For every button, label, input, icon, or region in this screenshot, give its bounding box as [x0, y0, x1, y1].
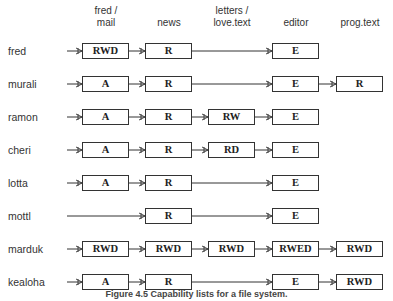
- row-label-ramon: ramon: [8, 111, 38, 123]
- capability-box: E: [272, 274, 319, 290]
- row-label-cheri: cheri: [8, 144, 31, 156]
- capability-box: A: [82, 175, 129, 191]
- capability-box: A: [82, 76, 129, 92]
- capability-box: RWD: [82, 241, 129, 257]
- capability-box: E: [272, 175, 319, 191]
- capability-box: A: [82, 274, 129, 290]
- capability-box: RWED: [272, 241, 319, 257]
- row-label-mottl: mottl: [8, 210, 31, 222]
- row-label-kealoha: kealoha: [8, 276, 45, 288]
- capability-box: R: [145, 109, 192, 125]
- capability-box: E: [272, 43, 319, 59]
- capability-box: R: [145, 142, 192, 158]
- capability-box: RW: [208, 109, 255, 125]
- capability-box: A: [82, 142, 129, 158]
- capability-box: RWD: [208, 241, 255, 257]
- capability-box: R: [145, 274, 192, 290]
- capability-box: RWD: [82, 43, 129, 59]
- capability-box: RD: [208, 142, 255, 158]
- row-label-fred: fred: [8, 45, 26, 57]
- capability-box: R: [145, 43, 192, 59]
- capability-box: E: [272, 208, 319, 224]
- capability-box: E: [272, 142, 319, 158]
- row-label-lotta: lotta: [8, 177, 28, 189]
- capability-box: E: [272, 76, 319, 92]
- capability-box: RWD: [145, 241, 192, 257]
- capability-box: R: [145, 175, 192, 191]
- capability-box: R: [145, 208, 192, 224]
- row-label-murali: murali: [8, 78, 37, 90]
- capability-box: RWD: [336, 274, 383, 290]
- capability-box: E: [272, 109, 319, 125]
- capability-box: R: [336, 76, 383, 92]
- arrow-connectors: [0, 0, 393, 301]
- capability-box: R: [145, 76, 192, 92]
- capability-box: A: [82, 109, 129, 125]
- row-label-marduk: marduk: [8, 243, 43, 255]
- figure-caption: Figure 4.5 Capability lists for a file s…: [0, 289, 393, 299]
- capability-box: RWD: [336, 241, 383, 257]
